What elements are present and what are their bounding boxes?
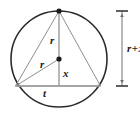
label-dimension-r-plus-x: r+x	[127, 43, 140, 54]
label-offset-x: x	[63, 68, 69, 79]
dimension-right-term: x	[139, 42, 140, 54]
center-point-dot	[56, 56, 61, 61]
label-base-chord-t: t	[43, 88, 46, 99]
label-radius-vertical: r	[50, 35, 54, 46]
label-radius-diagonal: r	[40, 59, 44, 70]
dimension-arrow-bottom	[120, 80, 124, 84]
apex-point-dot	[56, 8, 61, 13]
geometry-figure: r r x t r+x	[0, 0, 140, 119]
dimension-operator: +	[131, 42, 138, 54]
dimension-arrow-top	[120, 14, 124, 18]
geometry-diagram-svg	[0, 0, 140, 119]
radius-to-left-vertex	[16, 59, 60, 86]
